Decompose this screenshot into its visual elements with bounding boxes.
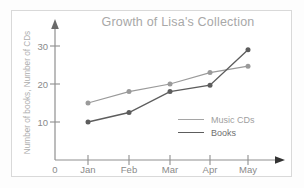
data-point [246,64,251,69]
y-axis-arrow-icon [51,19,59,29]
data-point [208,83,213,88]
legend-item-books: Books [178,126,255,139]
data-point [168,89,173,94]
legend-swatch-music-cds [178,119,204,120]
legend-item-music-cds: Music CDs [178,113,255,126]
plot-area [0,0,304,188]
data-point [246,47,251,52]
data-point [208,70,213,75]
data-point [127,110,132,115]
axes [50,19,285,165]
legend-label-books: Books [211,128,236,138]
data-point [86,120,91,125]
x-axis-arrow-icon [275,156,285,164]
legend-swatch-books [178,132,204,133]
data-point [168,82,173,87]
chart-legend: Music CDs Books [178,113,255,139]
legend-label-music-cds: Music CDs [211,115,255,125]
chart-container: Growth of Lisa's Collection Number of bo… [0,0,304,188]
data-point [86,101,91,106]
series-line [88,50,248,122]
data-point [127,89,132,94]
